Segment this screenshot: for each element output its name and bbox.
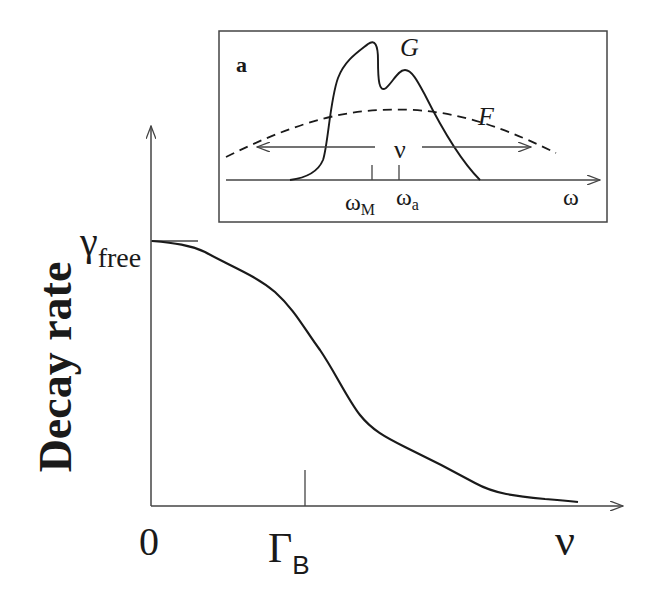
main-x-axis-label: ν bbox=[555, 516, 575, 565]
inset-f-label: F bbox=[477, 102, 495, 131]
inset-nu-label: ν bbox=[394, 135, 406, 164]
omega-a-subscript: a bbox=[412, 196, 419, 213]
inset-g-label: G bbox=[400, 33, 419, 62]
gamma-b-label: ΓB bbox=[268, 525, 310, 580]
gamma-free-label: γfree bbox=[79, 219, 141, 273]
x-origin-label: 0 bbox=[139, 519, 159, 564]
inset-panel-label: a bbox=[236, 52, 247, 77]
decay-rate-curve bbox=[152, 241, 578, 502]
inset-x-axis-label: ω bbox=[563, 184, 579, 210]
omega-m-symbol: ω bbox=[345, 189, 361, 215]
omega-a-symbol: ω bbox=[396, 184, 412, 210]
gamma-symbol: γ bbox=[79, 219, 98, 264]
figure-canvas: a ν G F ωM ωa ω bbox=[0, 0, 651, 604]
main-y-axis-label: Decay rate bbox=[30, 262, 81, 473]
gamma-b-subscript: B bbox=[292, 550, 309, 580]
inset-panel: a ν G F ωM ωa ω bbox=[219, 31, 607, 222]
gamma-subscript: free bbox=[98, 242, 142, 273]
gamma-b-symbol: Γ bbox=[268, 525, 292, 571]
omega-m-subscript: M bbox=[361, 201, 375, 218]
